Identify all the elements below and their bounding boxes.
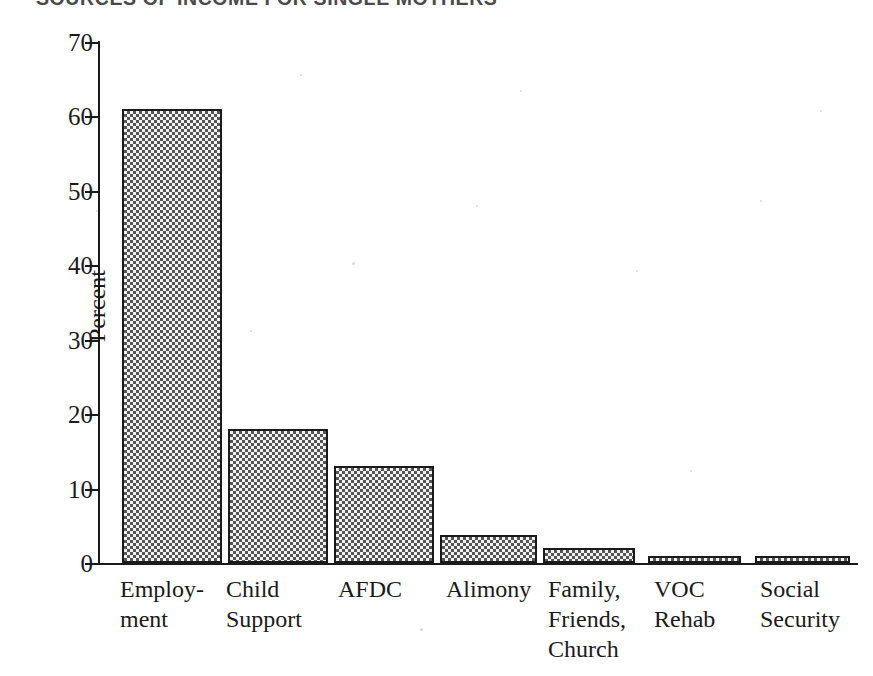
- chart-title: SOURCES OF INCOME FOR SINGLE MOTHERS: [36, 0, 836, 9]
- plot-area: Percent 010203040506070: [98, 42, 858, 563]
- bar: [543, 548, 635, 563]
- bar: [334, 466, 434, 563]
- x-axis-label: Employ- ment: [120, 574, 204, 634]
- y-tick-label: 20: [68, 402, 93, 427]
- x-axis-label: Family, Friends, Church: [548, 574, 626, 664]
- bar: [648, 556, 741, 563]
- bar: [228, 429, 328, 563]
- bar-chart-figure: SOURCES OF INCOME FOR SINGLE MOTHERS Per…: [0, 0, 873, 676]
- y-tick-label: 40: [68, 253, 93, 278]
- y-tick-label: 0: [81, 551, 94, 576]
- x-axis-label: Child Support: [226, 574, 302, 634]
- bar: [122, 109, 222, 563]
- bar: [440, 535, 537, 563]
- y-tick-label: 30: [68, 327, 93, 352]
- x-axis-line: [98, 563, 858, 565]
- y-tick-label: 10: [68, 476, 93, 501]
- x-axis-label: Social Security: [760, 574, 840, 634]
- y-tick-label: 60: [68, 104, 93, 129]
- x-axis-label: VOC Rehab: [654, 574, 715, 634]
- y-tick-label: 70: [68, 30, 93, 55]
- x-axis-label: AFDC: [338, 574, 402, 604]
- x-axis-label: Alimony: [446, 574, 531, 604]
- scan-speck: [420, 628, 423, 631]
- y-tick-label: 50: [68, 178, 93, 203]
- bar: [755, 556, 850, 563]
